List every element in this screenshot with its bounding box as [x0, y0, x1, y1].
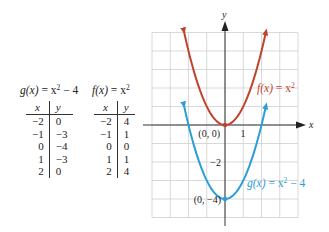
x-axis-arrow-icon — [296, 122, 306, 129]
vertex-f-point — [223, 123, 227, 127]
tick-x-1: 1 — [241, 128, 246, 139]
vertex-g-label: (0, −4) — [194, 194, 221, 206]
y-axis-arrow-icon — [222, 21, 229, 31]
x-axis-label: x — [308, 119, 314, 130]
tick-y-minus2: −2 — [210, 157, 221, 168]
vertex-g-point — [223, 197, 227, 201]
legend-f: f(x) = x2 — [257, 81, 295, 95]
y-axis-label: y — [221, 9, 227, 20]
parabola-graph: x y (0, 0) 1 −2 (0, −4) f(x) = x2 g(x) =… — [0, 0, 329, 232]
origin-label: (0, 0) — [198, 128, 220, 140]
legend-g: g(x) = x2 − 4 — [247, 176, 306, 190]
